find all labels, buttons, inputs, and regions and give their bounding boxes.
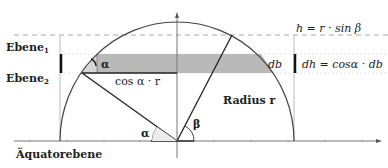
x-axis-arrow xyxy=(376,139,382,143)
alpha-angle-fill xyxy=(152,127,177,141)
radius-label: Radius r xyxy=(223,94,275,107)
ebene1-label: Ebene1 xyxy=(6,41,49,55)
y-axis-arrow xyxy=(175,12,179,18)
band-ring xyxy=(97,54,274,73)
beta-label: β xyxy=(193,118,200,131)
db-label: db xyxy=(268,58,282,71)
h-formula: h = r · sin β xyxy=(296,22,361,35)
equator-label: Äquatorebene xyxy=(15,147,102,161)
cos-alpha-r-label: cos α · r xyxy=(115,75,161,88)
dh-formula: dh = cosα · db xyxy=(302,58,383,71)
ebene2-label: Ebene2 xyxy=(6,72,49,86)
radius-beta-line xyxy=(177,35,232,141)
hemisphere-diagram: Ebene1 Ebene2 Äquatorebene Radius r cos … xyxy=(0,0,388,168)
alpha-bottom-label: α xyxy=(141,127,150,140)
alpha-top-label: α xyxy=(101,58,110,71)
